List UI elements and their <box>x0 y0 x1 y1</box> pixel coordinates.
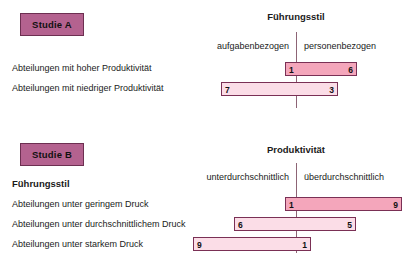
study-b-bar-0-left-value: 1 <box>289 198 294 212</box>
study-a-bar-1-right-value: 3 <box>329 83 334 97</box>
study-a-bar-0-left-value: 1 <box>289 63 294 77</box>
study-b-row-label-2: Abteilungen unter starkem Druck <box>12 239 143 250</box>
study-a-badge-label: Studie A <box>32 19 72 30</box>
study-b-row-label-1: Abteilungen unter durchschnittlichem Dru… <box>12 219 186 230</box>
study-a-row-label-0: Abteilungen mit hoher Produktivität <box>12 63 152 74</box>
study-a-badge: Studie A <box>20 13 84 36</box>
study-b-header-left: unterdurchschnittlich <box>168 172 289 182</box>
study-b-group-label: Führungsstil <box>12 178 70 189</box>
study-b-bar-2: 9 1 <box>193 237 311 251</box>
study-a-bar-0-right-value: 6 <box>348 63 353 77</box>
diagram-canvas: Studie A Führungsstil aufgabenbezogen pe… <box>0 0 416 276</box>
study-b-bar-1: 6 5 <box>234 217 356 231</box>
study-b-axis-title: Produktivität <box>241 144 351 155</box>
study-b-bar-2-right-value: 1 <box>302 238 307 252</box>
study-a-row-label-1: Abteilungen mit niedriger Produktivität <box>12 83 164 94</box>
study-b-header-right: überdurchschnittlich <box>304 172 416 182</box>
study-b-bar-1-left-value: 6 <box>238 218 243 232</box>
study-b-bar-0-right-value: 9 <box>393 198 398 212</box>
study-b-bar-0: 1 9 <box>285 197 402 211</box>
study-a-axis-title: Führungsstil <box>236 11 356 22</box>
study-a-header-left: aufgabenbezogen <box>196 41 289 51</box>
study-a-bar-0: 1 6 <box>285 62 357 76</box>
study-a-bar-1: 7 3 <box>221 82 338 96</box>
study-a-bar-1-left-value: 7 <box>225 83 230 97</box>
study-b-bar-1-right-value: 5 <box>347 218 352 232</box>
study-a-header-right: personenbezogen <box>304 41 414 51</box>
study-b-badge: Studie B <box>20 143 84 166</box>
study-b-row-label-0: Abteilungen unter geringem Druck <box>12 199 149 210</box>
study-b-badge-label: Studie B <box>32 149 72 160</box>
study-b-bar-2-left-value: 9 <box>197 238 202 252</box>
